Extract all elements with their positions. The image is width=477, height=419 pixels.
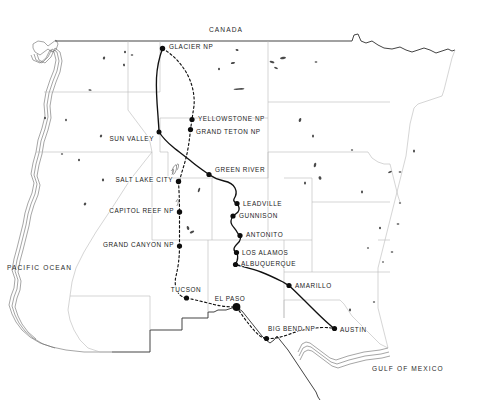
route-stop-grand-teton-np[interactable]: GRAND TETON NP bbox=[188, 127, 261, 135]
big-bend-np-label: BIG BEND NP bbox=[268, 325, 315, 332]
eastern-boundary bbox=[378, 50, 455, 348]
yellowstone-np-marker-icon[interactable] bbox=[189, 117, 194, 122]
return-route-dashed bbox=[163, 49, 335, 339]
canada-label: CANADA bbox=[209, 26, 243, 33]
route-stop-yellowstone-np[interactable]: YELLOWSTONE NP bbox=[189, 115, 264, 123]
austin-label: AUSTIN bbox=[340, 326, 367, 333]
capitol-reef-np-label: CAPITOL REEF NP bbox=[109, 207, 174, 214]
pacific-coastline bbox=[9, 48, 112, 352]
grand-canyon-np-label: GRAND CANYON NP bbox=[103, 241, 174, 248]
route-stop-green-river[interactable]: GREEN RIVER bbox=[206, 166, 265, 177]
route-stop-capitol-reef-np[interactable]: CAPITOL REEF NP bbox=[109, 207, 182, 215]
route-stop-austin[interactable]: AUSTIN bbox=[332, 326, 367, 333]
mexico-border bbox=[112, 307, 320, 400]
map-canvas: GLACIER NPYELLOWSTONE NPGRAND TETON NPSU… bbox=[0, 0, 477, 419]
region-labels-layer: CANADAPACIFIC OCEANGULF OF MEXICO bbox=[7, 26, 444, 372]
glacier-np-label: GLACIER NP bbox=[169, 43, 213, 50]
route-stop-tucson[interactable]: TUCSON bbox=[171, 286, 201, 301]
route-stop-sun-valley[interactable]: SUN VALLEY bbox=[110, 130, 162, 142]
route-stop-grand-canyon-np[interactable]: GRAND CANYON NP bbox=[103, 241, 182, 249]
route-stop-salt-lake-city[interactable]: SALT LAKE CITY bbox=[115, 176, 181, 184]
northern-border bbox=[55, 34, 455, 53]
leadville-marker-icon[interactable] bbox=[234, 201, 239, 206]
route-stop-los-alamos[interactable]: LOS ALAMOS bbox=[234, 249, 288, 256]
pacific-ocean-label: PACIFIC OCEAN bbox=[7, 264, 72, 271]
amarillo-label: AMARILLO bbox=[295, 282, 332, 289]
route-stop-amarillo[interactable]: AMARILLO bbox=[286, 282, 331, 289]
route-stop-antonito[interactable]: ANTONITO bbox=[237, 231, 283, 238]
antonito-label: ANTONITO bbox=[246, 231, 283, 238]
albuquerque-marker-icon[interactable] bbox=[233, 262, 238, 267]
route-stops-layer: GLACIER NPYELLOWSTONE NPGRAND TETON NPSU… bbox=[103, 43, 367, 341]
austin-marker-icon[interactable] bbox=[332, 326, 337, 331]
amarillo-marker-icon[interactable] bbox=[286, 283, 291, 288]
leadville-label: LEADVILLE bbox=[243, 200, 282, 207]
route-stop-albuquerque[interactable]: ALBUQUERQUE bbox=[233, 260, 296, 268]
sun-valley-marker-icon[interactable] bbox=[157, 130, 162, 135]
green-river-label: GREEN RIVER bbox=[215, 166, 265, 173]
big-bend-np-marker-icon[interactable] bbox=[264, 336, 269, 341]
tucson-label: TUCSON bbox=[171, 286, 201, 293]
antonito-marker-icon[interactable] bbox=[237, 233, 242, 238]
salt-lake-city-marker-icon[interactable] bbox=[176, 179, 181, 184]
capitol-reef-np-marker-icon[interactable] bbox=[177, 209, 182, 214]
glacier-np-marker-icon[interactable] bbox=[160, 46, 165, 51]
tucson-marker-icon[interactable] bbox=[184, 295, 189, 300]
gunnison-marker-icon[interactable] bbox=[230, 213, 235, 218]
yellowstone-np-label: YELLOWSTONE NP bbox=[198, 115, 265, 122]
grand-teton-np-label: GRAND TETON NP bbox=[196, 128, 261, 135]
el-paso-label: EL PASO bbox=[215, 295, 246, 302]
grand-canyon-np-marker-icon[interactable] bbox=[177, 243, 182, 248]
grand-teton-np-marker-icon[interactable] bbox=[188, 127, 193, 132]
los-alamos-marker-icon[interactable] bbox=[234, 250, 239, 255]
route-stop-glacier-np[interactable]: GLACIER NP bbox=[160, 43, 213, 51]
gunnison-label: GUNNISON bbox=[239, 212, 278, 219]
route-stop-leadville[interactable]: LEADVILLE bbox=[234, 200, 282, 207]
green-river-marker-icon[interactable] bbox=[206, 172, 211, 177]
sun-valley-label: SUN VALLEY bbox=[110, 135, 155, 142]
los-alamos-label: LOS ALAMOS bbox=[242, 249, 288, 256]
map-graphic: GLACIER NPYELLOWSTONE NPGRAND TETON NPSU… bbox=[0, 0, 477, 419]
gulf-of-mexico-label: GULF OF MEXICO bbox=[372, 365, 444, 372]
albuquerque-label: ALBUQUERQUE bbox=[241, 260, 296, 268]
el-paso-marker-icon[interactable] bbox=[233, 303, 241, 311]
salt-lake-city-label: SALT LAKE CITY bbox=[115, 176, 173, 183]
